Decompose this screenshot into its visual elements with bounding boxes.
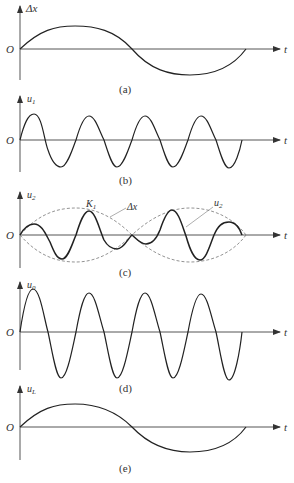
panel-d: u0 O t (d) [6,279,288,395]
origin-label: O [6,134,14,146]
origin-label: O [6,326,14,338]
origin-label: O [6,229,14,241]
panel-b: u1 O t (b) [6,93,288,187]
panel-a: Δx O t (a) [6,2,288,96]
uL-curve [20,404,246,452]
signal-leader-line [186,207,213,227]
panel-caption: (b) [119,174,132,187]
x-axis-label: t [284,421,288,433]
panel-caption: (c) [119,266,132,279]
signal-label: u2 [214,197,223,210]
y-axis-label: u1 [27,93,36,106]
x-axis-label: t [284,229,288,241]
envelope-leader-line [110,208,126,217]
y-axis-label: Δx [25,2,37,14]
panel-caption: (a) [119,83,132,96]
origin-label: O [6,43,14,55]
panel-e: uL O t (e) [6,383,288,475]
panel-caption: (d) [119,382,132,395]
panel-c: u2 O t K1 Δx u2 (c) [6,189,288,279]
envelope-upper [20,208,246,235]
x-axis-label: t [284,326,288,338]
u1-curve [20,114,242,168]
panel-caption: (e) [119,462,132,475]
origin-label: O [6,421,14,433]
envelope-label: Δx [126,201,138,212]
u0-curve [20,289,242,380]
y-axis-label: u2 [27,189,36,202]
y-axis-label: uL [27,383,36,396]
x-axis-label: t [284,43,288,55]
x-axis-label: t [284,134,288,146]
delta-x-curve [20,26,246,75]
figure-canvas: Δx O t (a) u1 O t (b) u2 O t K1 Δx u2 (c… [0,0,294,483]
